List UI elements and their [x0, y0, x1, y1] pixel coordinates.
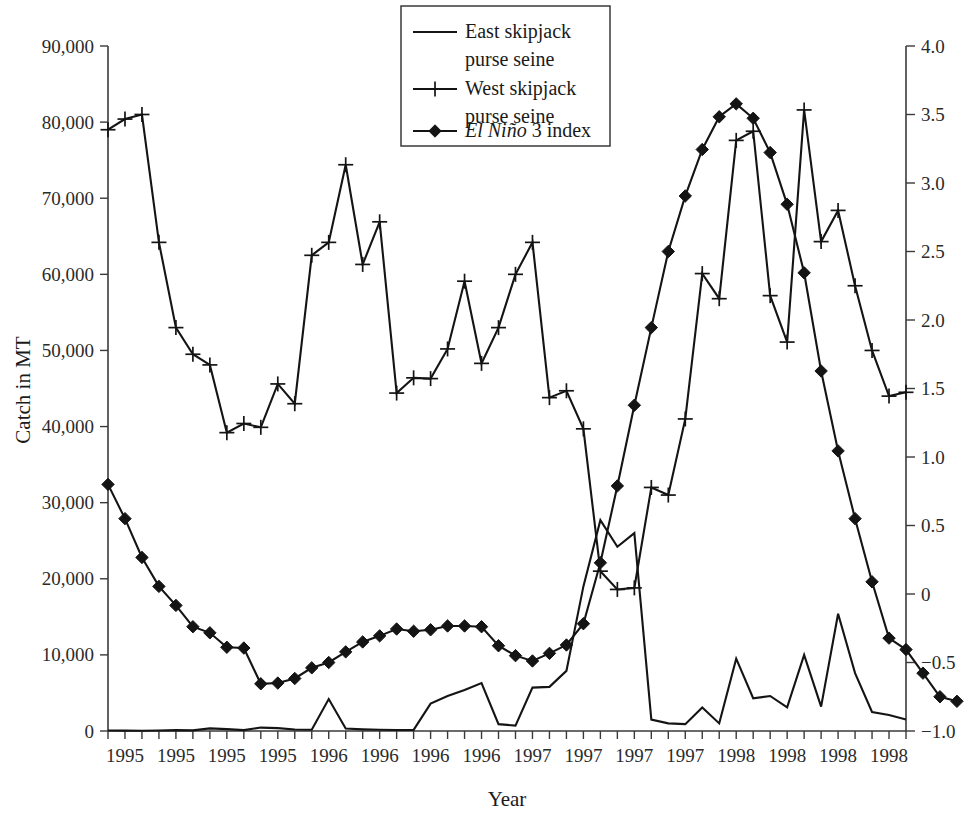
y-tick-label: 10,000	[42, 644, 94, 665]
x-tick-label: 1997	[615, 745, 653, 766]
axes	[108, 46, 906, 731]
y-tick-label: 80,000	[42, 112, 94, 133]
x-tick-label: 1998	[768, 745, 806, 766]
right-axis-ticks: −1.0−0.500.51.01.52.02.53.03.54.0	[906, 36, 955, 742]
x-tick-label: 1998	[717, 745, 755, 766]
y2-tick-label: −1.0	[921, 721, 955, 742]
x-tick-label: 1998	[870, 745, 908, 766]
x-tick-label: 1998	[819, 745, 857, 766]
y-tick-label: 50,000	[42, 340, 94, 361]
x-axis-title: Year	[488, 787, 527, 811]
legend-label: East skipjack	[465, 20, 571, 43]
x-tick-label: 1997	[564, 745, 602, 766]
y2-tick-label: 2.0	[921, 310, 945, 331]
x-tick-label: 1996	[361, 745, 399, 766]
y2-tick-label: 1.5	[921, 378, 945, 399]
series-1	[108, 520, 906, 731]
y2-tick-label: 4.0	[921, 36, 945, 57]
y2-tick-label: 2.5	[921, 241, 945, 262]
x-tick-label: 1996	[310, 745, 348, 766]
x-tick-label: 1995	[259, 745, 297, 766]
chart-figure: 010,00020,00030,00040,00050,00060,00070,…	[0, 0, 964, 820]
left-axis-ticks: 010,00020,00030,00040,00050,00060,00070,…	[42, 36, 108, 742]
y2-tick-label: 0.5	[921, 515, 945, 536]
x-tick-label: 1995	[208, 745, 246, 766]
chart-legend: East skipjackpurse seineWest skipjackpur…	[401, 6, 610, 146]
y-tick-label: 60,000	[42, 264, 94, 285]
series-2	[101, 102, 914, 597]
y-tick-label: 70,000	[42, 188, 94, 209]
legend-label: El Niño 3 index	[464, 119, 591, 141]
y2-tick-label: 0	[921, 584, 931, 605]
y-tick-label: 20,000	[42, 568, 94, 589]
data-series	[101, 98, 964, 731]
dual-axis-line-chart: 010,00020,00030,00040,00050,00060,00070,…	[0, 0, 964, 820]
legend-label: West skipjack	[465, 77, 576, 100]
y-tick-label: 30,000	[42, 492, 94, 513]
legend-label-line2: purse seine	[465, 48, 555, 71]
x-tick-label: 1997	[513, 745, 551, 766]
y2-tick-label: 3.0	[921, 173, 945, 194]
x-tick-label: 1995	[157, 745, 195, 766]
x-tick-label: 1996	[412, 745, 450, 766]
y-tick-label: 90,000	[42, 36, 94, 57]
x-tick-label: 1995	[106, 745, 144, 766]
y-tick-label: 0	[85, 721, 95, 742]
x-tick-label: 1996	[463, 745, 501, 766]
x-tick-label: 1997	[666, 745, 704, 766]
y-tick-label: 40,000	[42, 416, 94, 437]
y-axis-title: Catch in MT	[11, 336, 35, 443]
y2-tick-label: 1.0	[921, 447, 945, 468]
x-axis-ticks	[108, 731, 906, 739]
series-3	[102, 98, 963, 708]
y2-tick-label: 3.5	[921, 104, 945, 125]
x-axis-tick-labels: 1995199519951995199619961996199619971997…	[106, 745, 908, 766]
